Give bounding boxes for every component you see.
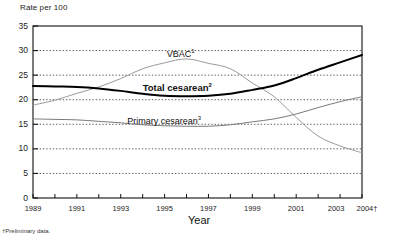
y-tick-label: 0: [6, 193, 28, 203]
series-label-primary-cesarean-superscript: 3: [198, 115, 201, 121]
x-tick-label: 1989: [25, 204, 42, 213]
chart-figure: Rate per 100 Year †Preliminary data. VBA…: [0, 0, 400, 242]
y-tick-label: 10: [6, 143, 28, 153]
series-label-vbac: VBAC1: [167, 48, 195, 59]
y-tick-label: 35: [6, 21, 28, 31]
y-tick-label: 20: [6, 94, 28, 104]
series-label-primary-cesarean-text: Primary cesarean: [127, 116, 198, 126]
x-tick-label: 1993: [112, 204, 129, 213]
x-tick-label: 1999: [244, 204, 261, 213]
x-tick-label: 1997: [200, 204, 217, 213]
x-axis-title: Year: [188, 214, 210, 226]
x-tick-label: 2001: [288, 204, 305, 213]
plot-frame: [33, 26, 362, 198]
series-line-vbac: [33, 59, 362, 153]
y-tick-label: 5: [6, 168, 28, 178]
series-label-primary-cesarean: Primary cesarean3: [127, 115, 201, 126]
series-label-vbac-superscript: 1: [191, 48, 194, 54]
x-tick-label: 1991: [69, 204, 86, 213]
y-axis-title: Rate per 100: [20, 3, 67, 12]
series-label-vbac-text: VBAC: [167, 49, 192, 59]
y-tick-label: 25: [6, 70, 28, 80]
series-label-total-cesarean: Total cesarean2: [143, 82, 212, 93]
y-tick-label: 15: [6, 119, 28, 129]
x-tick-label: 2004†: [357, 204, 378, 213]
x-tick-label: 1995: [156, 204, 173, 213]
footnote: †Preliminary data.: [2, 228, 50, 234]
series-label-total-cesarean-superscript: 2: [208, 82, 211, 88]
x-tick-label: 2003: [328, 204, 345, 213]
series-label-total-cesarean-text: Total cesarean: [143, 82, 209, 93]
y-tick-label: 30: [6, 45, 28, 55]
